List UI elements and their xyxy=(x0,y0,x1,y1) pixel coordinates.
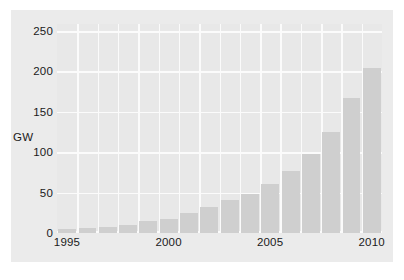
x-tick-label: 2000 xyxy=(155,236,181,248)
x-tick-label: 2005 xyxy=(257,236,283,248)
x-tick-label: 2010 xyxy=(358,236,384,248)
x-tick-label: 1995 xyxy=(54,236,80,248)
chart-figure: GW 0 50 100 150 200 250 xyxy=(0,0,404,280)
x-axis-tick-labels: 1995 2000 2005 2010 xyxy=(0,0,404,280)
